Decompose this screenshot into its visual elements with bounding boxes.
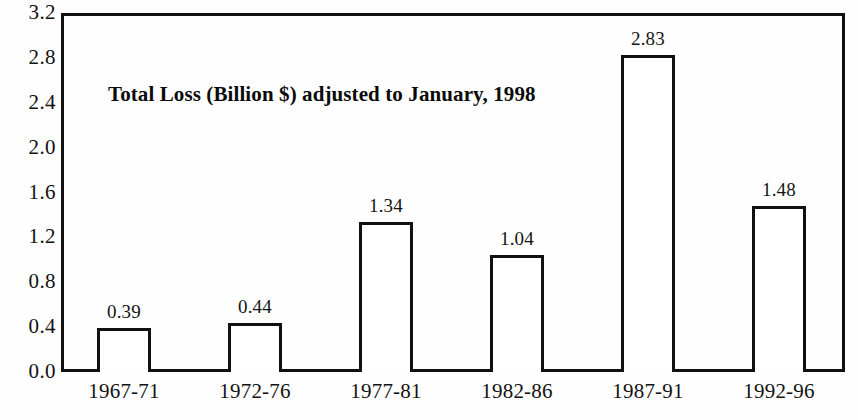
chart-title: Total Loss (Billion $) adjusted to Janua… xyxy=(108,82,536,106)
bar-value-label: 1.04 xyxy=(477,229,557,249)
y-tick-label: 0.8 xyxy=(0,271,56,292)
plot-frame xyxy=(61,13,845,372)
y-tick-label: 1.2 xyxy=(0,226,56,247)
x-tick-label: 1982-86 xyxy=(462,380,572,403)
bar-1992-96 xyxy=(752,206,806,372)
bar-1972-76 xyxy=(228,323,282,372)
bar-1977-81 xyxy=(359,222,413,372)
bar-value-label: 1.34 xyxy=(346,196,426,216)
x-tick-label: 1977-81 xyxy=(331,380,441,403)
y-tick-label: 2.0 xyxy=(0,137,56,158)
x-tick-label: 1972-76 xyxy=(200,380,310,403)
bar-chart-figure: 3.2 2.8 2.4 2.0 1.6 1.2 0.8 0.4 0.0 Tota… xyxy=(0,0,858,420)
y-tick-label: 0.0 xyxy=(0,361,56,382)
bar-value-label: 1.48 xyxy=(739,180,819,200)
x-tick-label: 1992-96 xyxy=(724,380,834,403)
bar-value-label: 0.39 xyxy=(84,302,164,322)
bar-1982-86 xyxy=(490,255,544,372)
x-tick-label: 1987-91 xyxy=(593,380,703,403)
y-tick-label: 3.2 xyxy=(0,2,56,23)
x-tick-label: 1967-71 xyxy=(69,380,179,403)
y-tick-label: 2.4 xyxy=(0,92,56,113)
y-tick-label: 0.4 xyxy=(0,316,56,337)
bar-value-label: 2.83 xyxy=(608,29,688,49)
bar-1987-91 xyxy=(621,55,675,372)
y-tick-label: 1.6 xyxy=(0,182,56,203)
bar-value-label: 0.44 xyxy=(215,297,295,317)
bar-1967-71 xyxy=(97,328,151,372)
y-tick-label: 2.8 xyxy=(0,47,56,68)
